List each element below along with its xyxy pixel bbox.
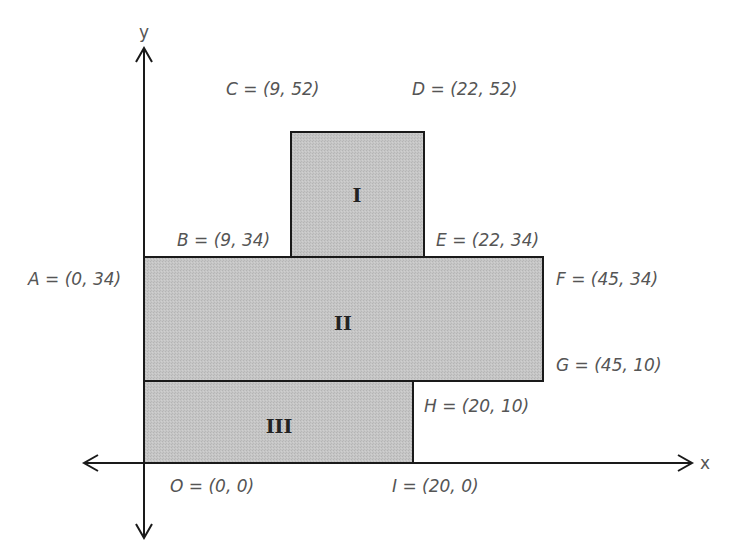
region-ii-label: II: [334, 312, 352, 334]
point-d-label: D = (22, 52): [412, 79, 517, 99]
region-iii-label: III: [266, 415, 293, 437]
point-i-label: I = (20, 0): [392, 476, 479, 496]
point-g-label: G = (45, 10): [556, 355, 662, 375]
region-iii: III: [144, 381, 413, 463]
region-i-label: I: [353, 184, 362, 206]
point-b-label: B = (9, 34): [177, 230, 270, 250]
region-i: I: [291, 132, 424, 257]
region-ii: II: [144, 257, 543, 381]
point-a-label: A = (0, 34): [27, 269, 121, 289]
y-axis-label: y: [139, 22, 149, 42]
point-c-label: C = (9, 52): [226, 79, 319, 99]
x-axis-label: x: [700, 453, 710, 473]
point-o-label: O = (0, 0): [170, 476, 254, 496]
point-h-label: H = (20, 10): [424, 396, 529, 416]
point-e-label: E = (22, 34): [436, 230, 539, 250]
coordinate-diagram: I II III y x C = (9, 52) D = (22, 52) B …: [0, 0, 736, 560]
point-f-label: F = (45, 34): [556, 269, 658, 289]
